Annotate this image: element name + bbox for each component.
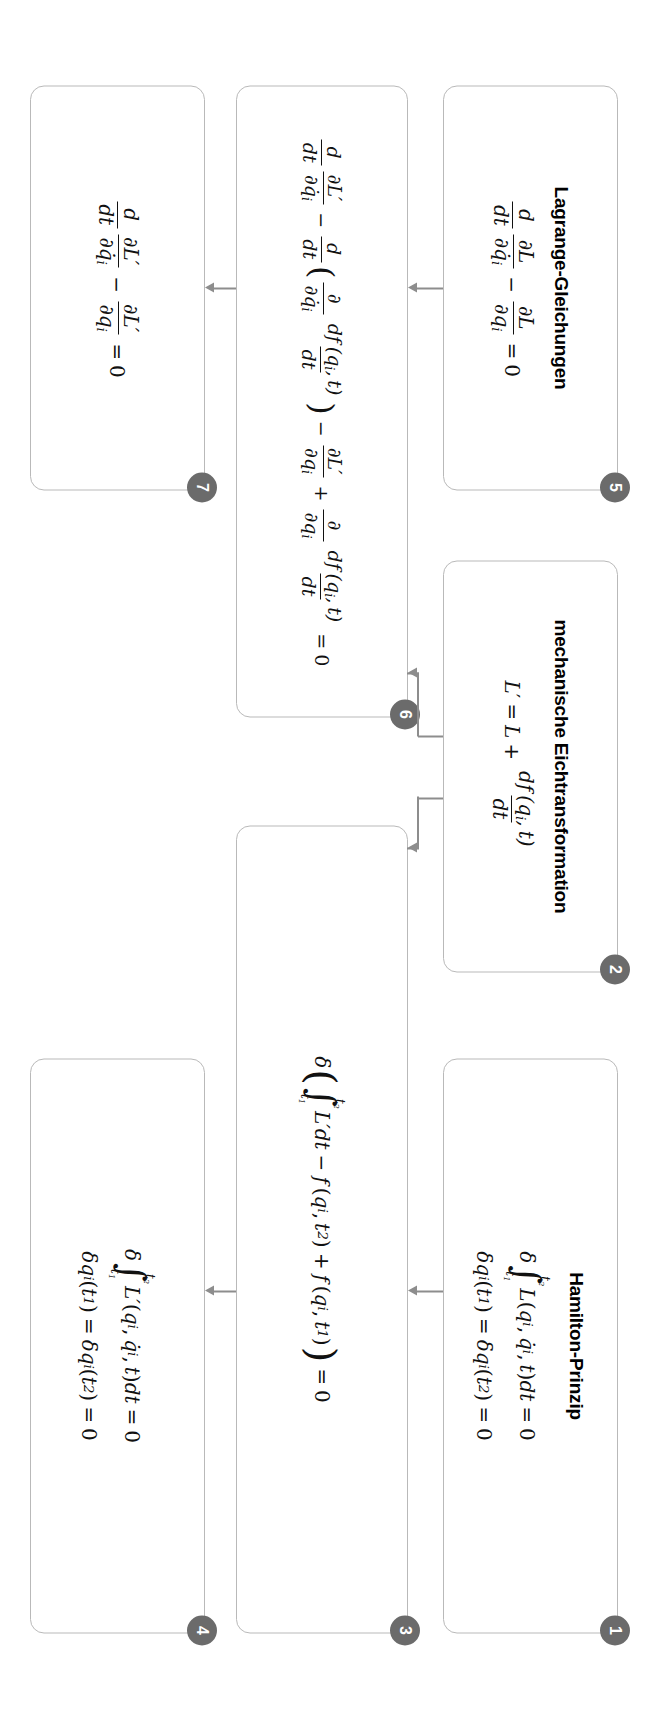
- equation-1-1: δ t2 ∫ t1 L(qi, q̇i, t)dt =0: [503, 1251, 552, 1440]
- edge-2-to-3-line: [417, 796, 419, 848]
- node-5-lagrange-gleichungen[interactable]: Lagrange-Gleichungen ddt ∂L∂q̇i − ∂L∂qi …: [443, 85, 618, 490]
- node-1-badge: 1: [600, 1615, 630, 1645]
- node-4-badge: 4: [187, 1615, 217, 1645]
- node-3-variation-with-f[interactable]: δ( t2 ∫ t1 L′dt − f (qi, t2) + f (qi, t1…: [236, 825, 408, 1633]
- node-6-expanded-lagrange[interactable]: ddt ∂L′∂q̇i − ddt ( ∂∂q̇i df (qi, t) dt …: [236, 85, 408, 717]
- equation-4-2: δqi(t1) = δqi(t2) =0: [79, 1251, 99, 1440]
- node-4-hamilton-prinzip-primed[interactable]: δ t2 ∫ t1 L′(qi, q̇i, t)dt =0 δqi(t1) = …: [30, 1058, 205, 1633]
- node-6-badge: 6: [390, 699, 420, 729]
- equation-2-1: L′=L+ df (qi, t) dt: [489, 680, 537, 852]
- equation-1-2: δqi(t1) = δqi(t2) =0: [474, 1251, 494, 1440]
- equation-5-1: ddt ∂L∂q̇i − ∂L∂qi =0: [489, 198, 537, 376]
- node-1-title: Hamilton-Prinzip: [565, 1272, 587, 1420]
- equation-7-1: ddt ∂L′∂q̇i − ∂L′∂qi =0: [94, 198, 142, 377]
- edge-1-to-3-line: [417, 1290, 443, 1292]
- node-6-equations: ddt ∂L′∂q̇i − ddt ( ∂∂q̇i df (qi, t) dt …: [299, 136, 346, 666]
- edge-2-to-6-line: [417, 672, 419, 736]
- equation-6-1: ddt ∂L′∂q̇i − ddt ( ∂∂q̇i df (qi, t) dt …: [299, 136, 346, 666]
- edge-6-to-7-line: [214, 287, 236, 289]
- edge-1-to-3-arrowhead: [408, 1285, 417, 1295]
- edge-5-to-6-line: [417, 287, 443, 289]
- node-4-equations: δ t2 ∫ t1 L′(qi, q̇i, t)dt =0 δqi(t1) = …: [79, 1249, 157, 1443]
- node-1-equations: δ t2 ∫ t1 L(qi, q̇i, t)dt =0 δqi(t1) = δ…: [474, 1251, 552, 1440]
- node-2-eichtransformation[interactable]: mechanische Eichtransformation L′=L+ df …: [443, 560, 618, 972]
- node-2-badge: 2: [600, 954, 630, 984]
- edge-2-to-6-stub: [418, 735, 443, 737]
- edge-5-to-6-arrowhead: [408, 282, 417, 292]
- node-7-lagrange-gleichungen-primed[interactable]: ddt ∂L′∂q̇i − ∂L′∂qi =0 7: [30, 85, 205, 490]
- node-7-equations: ddt ∂L′∂q̇i − ∂L′∂qi =0: [94, 198, 142, 377]
- node-3-equations: δ( t2 ∫ t1 L′dt − f (qi, t2) + f (qi, t1…: [298, 1056, 347, 1403]
- node-5-title: Lagrange-Gleichungen: [550, 186, 572, 389]
- edge-2-to-3-stub: [418, 797, 443, 799]
- edge-2-to-6-arrowhead: [408, 667, 417, 677]
- node-2-equations: L′=L+ df (qi, t) dt: [489, 680, 537, 852]
- node-5-badge: 5: [600, 472, 630, 502]
- node-7-badge: 7: [187, 472, 217, 502]
- edge-2-to-3-arrowhead: [408, 842, 417, 852]
- equation-4-1: δ t2 ∫ t1 L′(qi, q̇i, t)dt =0: [108, 1249, 157, 1443]
- node-1-hamilton-prinzip[interactable]: Hamilton-Prinzip δ t2 ∫ t1 L(qi, q̇i, t)…: [443, 1058, 618, 1633]
- edge-3-to-4-arrowhead: [205, 1285, 214, 1295]
- node-5-equations: ddt ∂L∂q̇i − ∂L∂qi =0: [489, 198, 537, 376]
- flowchart-canvas: Lagrange-Gleichungen ddt ∂L∂q̇i − ∂L∂qi …: [0, 0, 658, 1733]
- equation-3-1: δ( t2 ∫ t1 L′dt − f (qi, t2) + f (qi, t1…: [298, 1056, 347, 1403]
- node-2-title: mechanische Eichtransformation: [550, 619, 572, 913]
- node-3-badge: 3: [390, 1615, 420, 1645]
- edge-6-to-7-arrowhead: [205, 282, 214, 292]
- edge-3-to-4-line: [214, 1290, 236, 1292]
